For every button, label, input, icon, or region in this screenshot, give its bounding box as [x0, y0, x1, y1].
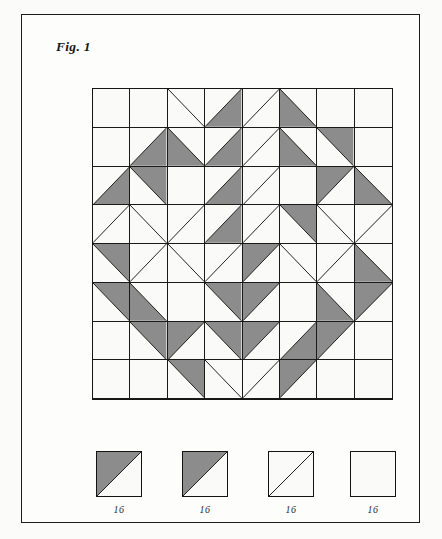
quilt-cell: [93, 244, 130, 283]
quilt-cell: [355, 167, 392, 206]
block-type-2-label: 16: [182, 504, 228, 515]
quilt-cell: [317, 283, 354, 322]
legend-item: 16: [182, 451, 228, 515]
quilt-cell: [243, 322, 280, 361]
block-type-1-swatch: [96, 451, 142, 497]
quilt-cell: [355, 283, 392, 322]
block-type-4-swatch: [350, 451, 396, 497]
quilt-cell: [168, 205, 205, 244]
quilt-cell: [130, 128, 167, 167]
quilt-cell: [168, 89, 205, 128]
quilt-cell: [93, 128, 130, 167]
quilt-cell: [205, 128, 242, 167]
quilt-cell: [130, 244, 167, 283]
quilt-cell: [168, 244, 205, 283]
quilt-cell: [168, 167, 205, 206]
quilt-cell: [317, 360, 354, 399]
quilt-cell: [317, 89, 354, 128]
quilt-cell: [205, 167, 242, 206]
quilt-cell: [130, 360, 167, 399]
quilt-cell: [317, 244, 354, 283]
quilt-cell: [205, 244, 242, 283]
quilt-cell: [93, 322, 130, 361]
block-type-3-swatch: [268, 451, 314, 497]
quilt-pattern-grid: [92, 88, 393, 400]
quilt-cell: [93, 89, 130, 128]
figure-page: Fig. 1 16161616: [0, 0, 442, 539]
quilt-cell: [280, 205, 317, 244]
quilt-cell: [205, 360, 242, 399]
quilt-cell: [130, 322, 167, 361]
legend-item: 16: [350, 451, 396, 515]
quilt-cell: [93, 205, 130, 244]
quilt-cell: [280, 322, 317, 361]
block-type-4-label: 16: [350, 504, 396, 515]
quilt-cell: [243, 128, 280, 167]
block-type-1-label: 16: [96, 504, 142, 515]
quilt-cell: [280, 283, 317, 322]
quilt-cell: [130, 89, 167, 128]
figure-frame: Fig. 1 16161616: [21, 14, 420, 523]
quilt-cell: [280, 244, 317, 283]
quilt-cell: [317, 128, 354, 167]
quilt-cell: [205, 205, 242, 244]
legend-item: 16: [268, 451, 314, 515]
quilt-cell: [243, 167, 280, 206]
quilt-cell: [317, 205, 354, 244]
quilt-cell: [280, 360, 317, 399]
quilt-cell: [205, 89, 242, 128]
quilt-cell: [168, 360, 205, 399]
quilt-cell: [355, 322, 392, 361]
quilt-cell: [93, 360, 130, 399]
quilt-cell: [317, 167, 354, 206]
quilt-cell: [243, 205, 280, 244]
quilt-cell: [355, 360, 392, 399]
quilt-cell: [168, 128, 205, 167]
legend: 16161616: [92, 451, 393, 523]
block-type-2-swatch: [182, 451, 228, 497]
quilt-cell: [93, 283, 130, 322]
quilt-cell: [243, 89, 280, 128]
quilt-cell: [355, 128, 392, 167]
quilt-cell: [93, 167, 130, 206]
quilt-cell: [243, 360, 280, 399]
quilt-cell: [130, 283, 167, 322]
quilt-cell: [168, 322, 205, 361]
quilt-cell: [355, 244, 392, 283]
quilt-cell: [130, 205, 167, 244]
quilt-cell: [243, 244, 280, 283]
quilt-cell: [280, 128, 317, 167]
quilt-cell: [130, 167, 167, 206]
quilt-cell: [168, 283, 205, 322]
quilt-cell: [355, 89, 392, 128]
quilt-cell: [317, 322, 354, 361]
figure-label: Fig. 1: [56, 39, 91, 55]
quilt-cell: [243, 283, 280, 322]
block-type-3-label: 16: [268, 504, 314, 515]
quilt-cell: [205, 283, 242, 322]
legend-item: 16: [96, 451, 142, 515]
quilt-cell: [205, 322, 242, 361]
quilt-cell: [280, 167, 317, 206]
quilt-cell: [280, 89, 317, 128]
quilt-cell: [355, 205, 392, 244]
